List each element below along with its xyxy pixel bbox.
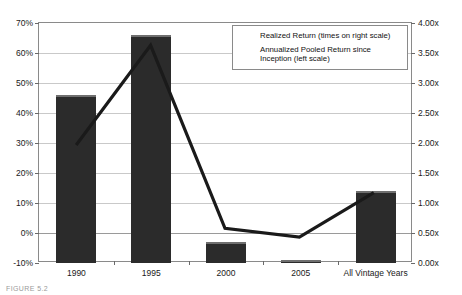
left-axis-tick-label: 20% (16, 168, 33, 178)
legend-item-annualized-pooled-return: Annualized Pooled Return since Inception… (240, 45, 402, 64)
right-axis-tickmark (411, 233, 415, 234)
bar-swatch-icon (240, 31, 260, 35)
gridline (39, 83, 411, 84)
chart-container: -10%0%10%20%30%40%50%60%70% 0.00x0.50x1.… (0, 0, 462, 295)
right-axis-tickmark (411, 113, 415, 114)
right-axis-tickmark (411, 23, 415, 24)
figure-caption: FIGURE 5.2 (6, 285, 48, 295)
x-axis-label-2005: 2005 (291, 268, 310, 278)
x-axis-tickmark (263, 261, 264, 265)
right-axis-tick-label: 3.00x (418, 78, 439, 88)
left-axis-tickmark (35, 23, 39, 24)
left-axis-tick-label: 10% (16, 198, 33, 208)
line-swatch-icon (240, 45, 260, 49)
right-axis-tick-label: 4.00x (418, 18, 439, 28)
x-axis-label-1995: 1995 (142, 268, 161, 278)
right-axis-tickmark (411, 143, 415, 144)
right-axis-tick-label: 2.00x (418, 138, 439, 148)
left-axis-tickmark (35, 143, 39, 144)
left-axis-tickmark (35, 113, 39, 114)
left-axis-tickmark (35, 173, 39, 174)
bar-all-vintage-years (356, 191, 396, 263)
bar-1995 (131, 35, 171, 263)
right-axis-tickmark (411, 263, 415, 264)
right-axis-tickmark (411, 53, 415, 54)
left-axis-tickmark (35, 53, 39, 54)
left-axis-tick-label: 30% (16, 138, 33, 148)
left-axis-tickmark (35, 233, 39, 234)
chart-legend: Realized Return (times on right scale) A… (232, 25, 408, 70)
left-axis-tick-label: 50% (16, 78, 33, 88)
x-axis-label-all-vintage-years: All Vintage Years (344, 268, 408, 278)
x-axis-label-2000: 2000 (217, 268, 236, 278)
x-axis-tickmark (189, 261, 190, 265)
right-axis-tick-label: 1.00x (418, 198, 439, 208)
right-axis-tick-label: 0.50x (418, 228, 439, 238)
bar-2000 (206, 242, 246, 263)
legend-label-realized-return: Realized Return (times on right scale) (260, 31, 390, 41)
right-axis-tick-label: 0.00x (418, 258, 439, 268)
left-axis-tick-label: 70% (16, 18, 33, 28)
right-axis-tick-label: 3.50x (418, 48, 439, 58)
bar-1990 (56, 95, 96, 263)
right-axis-tick-label: 1.50x (418, 168, 439, 178)
left-axis-tick-label: 0% (21, 228, 33, 238)
left-axis-tick-label: -10% (13, 258, 33, 268)
right-axis-tickmark (411, 173, 415, 174)
legend-label-annualized-pooled-return: Annualized Pooled Return since Inception… (260, 45, 402, 64)
annualized-pooled-return-line (76, 45, 374, 237)
right-axis-tick-label: 2.50x (418, 108, 439, 118)
right-axis-tickmark (411, 203, 415, 204)
x-axis-tickmark (338, 261, 339, 265)
left-axis-tick-label: 60% (16, 48, 33, 58)
left-axis-tickmark (35, 263, 39, 264)
left-axis-tickmark (35, 203, 39, 204)
left-axis-tick-label: 40% (16, 108, 33, 118)
bar-2005 (281, 260, 321, 263)
x-axis-label-1990: 1990 (67, 268, 86, 278)
legend-item-realized-return: Realized Return (times on right scale) (240, 31, 402, 41)
left-axis-tickmark (35, 83, 39, 84)
x-axis-tickmark (114, 261, 115, 265)
right-axis-tickmark (411, 83, 415, 84)
